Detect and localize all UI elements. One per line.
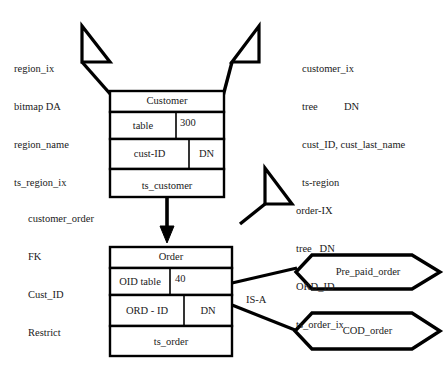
arrow-head <box>160 226 174 243</box>
order-index-connector <box>240 204 265 224</box>
region-index-flag <box>82 26 112 96</box>
order-row-2-right: DN <box>184 305 232 316</box>
customer-row-2-left: cust-ID <box>110 148 189 159</box>
customer-footer-label: ts_customer <box>110 180 224 191</box>
region-index-triangle <box>82 26 110 62</box>
customer-order-arrow <box>160 197 174 243</box>
pre-paid-order-label: Pre_paid_order <box>296 266 440 277</box>
order-footer-label: ts_order <box>110 336 232 347</box>
is-a-connector-pre-paid <box>232 268 297 283</box>
order-index-triangle <box>265 168 292 204</box>
order-row-2-left: ORD - ID <box>110 305 184 316</box>
customer-row-2-right: DN <box>189 148 224 159</box>
customer-index-flag <box>223 26 259 96</box>
order-entity-title: Order <box>110 251 232 262</box>
customer-row-1-left: table <box>110 120 176 131</box>
customer-order-fk-annotation: customer_order FK Cust_ID Restrict <box>28 188 94 364</box>
order-row-1-right: 40 <box>175 273 215 284</box>
er-diagram-canvas: region_ix bitmap DA region_name ts_regio… <box>0 0 446 378</box>
is-a-connector-cod <box>232 305 295 330</box>
region-index-connector <box>82 62 112 96</box>
customer-row-1-right: 300 <box>180 117 220 128</box>
customer-index-triangle <box>232 26 259 62</box>
is-a-label: IS-A <box>246 294 266 305</box>
order-index-flag <box>240 168 292 224</box>
cod-order-label: COD_order <box>295 325 440 336</box>
customer-entity-title: Customer <box>110 95 224 106</box>
order-row-1-left: OID table <box>110 276 170 287</box>
